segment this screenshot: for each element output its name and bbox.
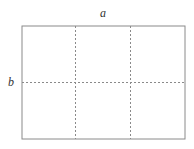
grid-diagram: a b xyxy=(0,0,194,149)
label-a: a xyxy=(100,6,106,20)
label-b: b xyxy=(8,75,14,89)
